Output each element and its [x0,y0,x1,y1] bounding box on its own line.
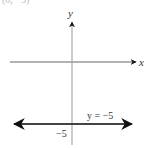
y-axis-label: y [68,8,73,19]
x-axis-label: x [139,57,144,68]
intercept-label: −5 [56,129,67,139]
line-label: y = −5 [87,111,113,121]
coordinate-plane [0,0,148,148]
